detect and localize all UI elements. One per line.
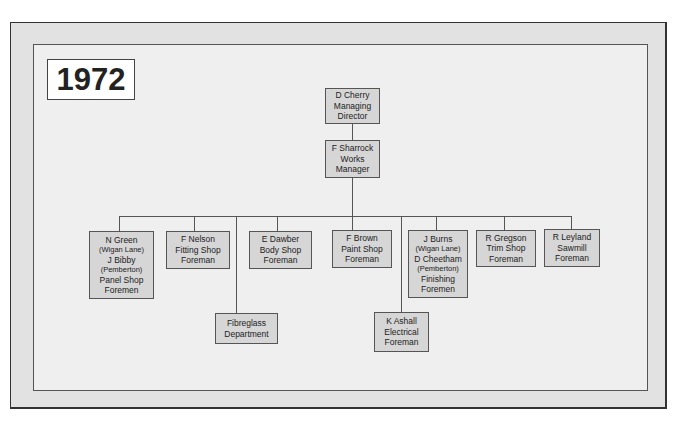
node-fitting-shop-foreman: F Nelson Fitting Shop Foreman bbox=[166, 231, 230, 269]
node-line: Manager bbox=[336, 164, 370, 175]
connector-sawmill bbox=[571, 216, 572, 229]
connector-fitting bbox=[194, 216, 195, 231]
node-line: (Wigan Lane) bbox=[415, 244, 460, 254]
node-line: Panel Shop bbox=[100, 275, 144, 286]
node-line: D Cheetham bbox=[414, 254, 462, 265]
node-line: Foreman bbox=[263, 255, 297, 266]
node-trim-shop-foreman: R Gregson Trim Shop Foreman bbox=[476, 230, 536, 267]
node-works-manager: F Sharrock Works Manager bbox=[325, 140, 380, 178]
node-line: N Green bbox=[105, 235, 137, 246]
node-managing-director: D Cherry Managing Director bbox=[325, 88, 380, 124]
connector-md-wm bbox=[352, 124, 353, 140]
node-line: Foreman bbox=[489, 254, 523, 265]
node-electrical-foreman: K Ashall Electrical Foreman bbox=[374, 312, 429, 352]
node-line: Foremen bbox=[421, 284, 455, 295]
node-fibreglass-department: Fibreglass Department bbox=[215, 313, 278, 344]
node-line: Foremen bbox=[104, 285, 138, 296]
node-line: Managing bbox=[334, 101, 371, 112]
node-line: Foreman bbox=[181, 255, 215, 266]
node-line: R Gregson bbox=[485, 233, 526, 244]
node-sawmill-foreman: R Leyland Sawmill Foreman bbox=[544, 229, 600, 267]
node-line: (Pemberton) bbox=[417, 264, 459, 274]
node-line: (Wigan Lane) bbox=[99, 245, 144, 255]
node-line: Foreman bbox=[384, 337, 418, 348]
node-line: Paint Shop bbox=[341, 244, 383, 255]
node-line: Finishing bbox=[421, 274, 455, 285]
node-paint-shop-foreman: F Brown Paint Shop Foreman bbox=[332, 230, 392, 268]
node-finishing-foremen: J Burns (Wigan Lane) D Cheetham (Pembert… bbox=[408, 230, 468, 298]
node-line: D Cherry bbox=[335, 90, 369, 101]
connector-finishing bbox=[436, 216, 437, 230]
node-line: Director bbox=[338, 111, 368, 122]
node-line: (Pemberton) bbox=[101, 265, 143, 275]
node-line: Works bbox=[341, 154, 365, 165]
node-line: Fitting Shop bbox=[175, 245, 220, 256]
node-line: K Ashall bbox=[386, 316, 417, 327]
node-panel-shop-foremen: N Green (Wigan Lane) J Bibby (Pemberton)… bbox=[89, 231, 154, 299]
node-line: F Brown bbox=[346, 233, 378, 244]
node-line: R Leyland bbox=[553, 232, 591, 243]
connector-fibreglass bbox=[236, 216, 237, 313]
connector-body bbox=[277, 216, 278, 231]
node-line: E Dawber bbox=[262, 234, 299, 245]
year-label: 1972 bbox=[47, 59, 135, 100]
node-line: Body Shop bbox=[260, 245, 302, 256]
node-line: F Nelson bbox=[181, 234, 215, 245]
connector-trim bbox=[504, 216, 505, 230]
node-line: F Sharrock bbox=[332, 143, 374, 154]
connector-electrical bbox=[401, 216, 402, 312]
node-line: Trim Shop bbox=[487, 243, 526, 254]
node-body-shop-foreman: E Dawber Body Shop Foreman bbox=[249, 231, 312, 269]
node-line: Department bbox=[224, 329, 268, 340]
node-line: J Bibby bbox=[108, 255, 136, 266]
node-line: J Burns bbox=[424, 234, 453, 245]
connector-wm-trunk bbox=[352, 178, 353, 230]
node-line: Fibreglass bbox=[227, 318, 266, 329]
node-line: Foreman bbox=[555, 253, 589, 264]
node-line: Electrical bbox=[384, 327, 418, 338]
connector-panel bbox=[119, 216, 120, 231]
node-line: Sawmill bbox=[557, 243, 586, 254]
node-line: Foreman bbox=[345, 254, 379, 265]
